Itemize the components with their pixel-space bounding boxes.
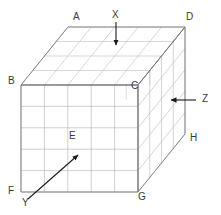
vertex-label-G: G [138,192,146,202]
vertex-label-A: A [73,12,80,22]
vertex-label-B: B [8,76,15,86]
vertex-label-E: E [69,131,76,141]
front-face-fill [21,85,138,192]
cube-grid-diagram [0,0,221,215]
vertex-label-H: H [190,133,197,143]
arrow-label-Z: Z [202,94,208,104]
arrow-label-Y: Y [22,198,29,208]
vertex-label-D: D [186,12,193,22]
arrow-label-X: X [112,10,119,20]
vertex-label-F: F [8,186,14,196]
vertex-label-C: C [131,81,138,91]
front-face [21,85,138,192]
